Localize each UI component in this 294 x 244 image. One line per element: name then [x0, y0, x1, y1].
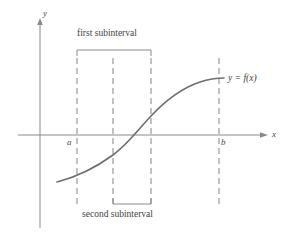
first-subinterval-label: first subinterval [77, 28, 137, 38]
first-subinterval-bracket [77, 50, 151, 56]
y-axis-label: y [43, 8, 47, 18]
function-partition-figure: y x a b y = f(x) first subinterval secon… [0, 0, 294, 244]
x-axis [18, 132, 268, 138]
second-subinterval-label: second subinterval [82, 209, 153, 219]
function-label: y = f(x) [228, 73, 257, 83]
tick-label-b: b [221, 137, 226, 147]
second-subinterval-bracket [113, 198, 151, 204]
figure-canvas [0, 0, 294, 244]
tick-label-a: a [67, 137, 72, 147]
y-axis [37, 18, 43, 228]
x-axis-label: x [272, 129, 276, 139]
function-curve [57, 78, 224, 182]
